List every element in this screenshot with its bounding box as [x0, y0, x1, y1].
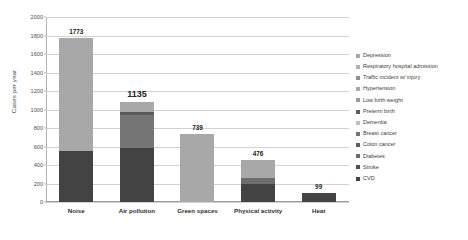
y-axis-tick-label: 2000 — [31, 14, 43, 20]
x-axis-category-label: Green spaces — [177, 207, 218, 214]
bar-value-label: 1135 — [127, 89, 147, 99]
legend-item-low-birth-weight[interactable]: Low birth weight — [356, 95, 468, 106]
bar-column[interactable]: 739Green spaces — [167, 17, 228, 202]
bar-segment[interactable] — [180, 134, 214, 202]
chart-legend: DepressionRespiratory hospital admission… — [356, 50, 468, 184]
bar-column[interactable]: 476Physical activity — [228, 17, 289, 202]
legend-swatch-icon — [356, 121, 360, 125]
y-axis-tick-label: 200 — [34, 181, 43, 187]
legend-swatch-icon — [356, 165, 360, 169]
chart-root: Cases per year 0200400600800100012001400… — [0, 0, 468, 240]
legend-swatch-icon — [356, 143, 360, 147]
legend-item-respiratory-hospital-admission[interactable]: Respiratory hospital admission — [356, 61, 468, 72]
legend-swatch-icon — [356, 87, 360, 91]
legend-item-dementia[interactable]: Dementia — [356, 117, 468, 128]
legend-item-label: Breast cancer — [363, 131, 397, 137]
legend-item-label: Traffic incident w/ injury — [363, 75, 420, 81]
y-axis-tick-label: 600 — [34, 144, 43, 150]
bar-stack[interactable]: 1135 — [120, 102, 154, 202]
y-axis-tick-label: 1600 — [31, 51, 43, 57]
legend-swatch-icon — [356, 110, 360, 114]
bar-group: 1773Noise1135Air pollution739Green space… — [46, 17, 349, 202]
y-axis-tick-label: 1200 — [31, 88, 43, 94]
legend-item-colon-cancer[interactable]: Colon cancer — [356, 140, 468, 151]
legend-item-label: Preterm birth — [363, 109, 395, 115]
y-axis-title: Cases per year — [10, 57, 17, 127]
bar-stack[interactable]: 476 — [241, 160, 275, 202]
y-axis-tick-label: 1800 — [31, 33, 43, 39]
x-axis-category-label: Heat — [312, 207, 325, 214]
bar-value-label: 99 — [315, 183, 322, 190]
x-axis-category-label: Noise — [68, 207, 85, 214]
bar-value-label: 739 — [192, 124, 203, 131]
bar-segment[interactable] — [302, 193, 336, 202]
legend-item-traffic-incident-w-injury[interactable]: Traffic incident w/ injury — [356, 72, 468, 83]
bar-segment[interactable] — [59, 151, 93, 202]
legend-item-label: Dementia — [363, 120, 387, 126]
bar-column[interactable]: 1773Noise — [46, 17, 107, 202]
bar-value-label: 1773 — [69, 28, 83, 35]
legend-item-label: Low birth weight — [363, 98, 403, 104]
legend-swatch-icon — [356, 154, 360, 158]
legend-item-depression[interactable]: Depression — [356, 50, 468, 61]
bar-stack[interactable]: 1773 — [59, 38, 93, 202]
x-axis-category-label: Air pollution — [119, 207, 155, 214]
legend-item-diabetes[interactable]: Diabetes — [356, 151, 468, 162]
legend-item-hypertension[interactable]: Hypertension — [356, 84, 468, 95]
legend-item-label: Hypertension — [363, 86, 395, 92]
legend-item-label: Stroke — [363, 165, 379, 171]
legend-item-breast-cancer[interactable]: Breast cancer — [356, 128, 468, 139]
legend-item-preterm-birth[interactable]: Preterm birth — [356, 106, 468, 117]
bar-stack[interactable]: 99 — [302, 193, 336, 202]
legend-swatch-icon — [356, 76, 360, 80]
bar-segment[interactable] — [120, 115, 154, 149]
legend-swatch-icon — [356, 54, 360, 58]
plot-area: 0200400600800100012001400160018002000 17… — [46, 17, 349, 202]
legend-item-cvd[interactable]: CVD — [356, 173, 468, 184]
bar-column[interactable]: 1135Air pollution — [107, 17, 168, 202]
legend-item-label: Depression — [363, 53, 391, 59]
y-axis-tick-label: 800 — [34, 125, 43, 131]
bar-segment[interactable] — [241, 184, 275, 203]
bar-segment[interactable] — [120, 148, 154, 202]
legend-swatch-icon — [356, 177, 360, 181]
bar-segment[interactable] — [241, 160, 275, 178]
y-axis-tick-label: 1400 — [31, 70, 43, 76]
bar-segment[interactable] — [59, 38, 93, 151]
y-axis-tick-label: 1000 — [31, 107, 43, 113]
y-axis-tick-label: 400 — [34, 162, 43, 168]
gridline — [46, 202, 349, 203]
legend-item-label: CVD — [363, 176, 375, 182]
bar-segment[interactable] — [120, 102, 154, 112]
legend-item-stroke[interactable]: Stroke — [356, 162, 468, 173]
legend-item-label: Respiratory hospital admission — [363, 64, 438, 70]
legend-swatch-icon — [356, 132, 360, 136]
bar-column[interactable]: 99Heat — [288, 17, 349, 202]
bar-stack[interactable]: 739 — [180, 134, 214, 202]
y-axis-tick-label: 0 — [40, 199, 43, 205]
bar-value-label: 476 — [253, 150, 264, 157]
legend-item-label: Diabetes — [363, 154, 385, 160]
legend-item-label: Colon cancer — [363, 142, 395, 148]
legend-swatch-icon — [356, 98, 360, 102]
legend-swatch-icon — [356, 65, 360, 69]
x-axis-category-label: Physical activity — [234, 207, 282, 214]
